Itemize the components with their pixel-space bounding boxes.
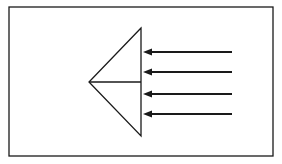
arrowhead-icon <box>143 49 152 56</box>
arrowhead-icon <box>143 111 152 118</box>
incoming-rays <box>143 49 232 118</box>
arrowhead-icon <box>143 69 152 76</box>
prism-ray-diagram <box>0 0 282 164</box>
arrowhead-icon <box>143 91 152 98</box>
